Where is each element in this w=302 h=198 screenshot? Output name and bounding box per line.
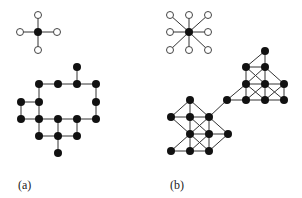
panel-label-a: (a) <box>18 178 31 192</box>
graph-node <box>167 113 175 121</box>
graph-node <box>73 63 81 71</box>
graph-node <box>280 80 288 88</box>
graph-8-connected <box>167 47 288 155</box>
graph-node <box>186 113 194 121</box>
center-node <box>185 28 193 36</box>
neighbor-node <box>167 12 174 19</box>
graph-node <box>280 96 288 104</box>
graph-node <box>167 147 175 155</box>
graph-node <box>35 132 43 140</box>
graph-node <box>242 96 250 104</box>
neighbor-node <box>35 47 42 54</box>
neighbor-node <box>186 47 193 54</box>
graph-node <box>54 132 62 140</box>
graph-node <box>186 147 194 155</box>
graph-node <box>186 130 194 138</box>
panel-label-b: (b) <box>170 178 184 192</box>
graph-node <box>261 80 269 88</box>
graph-node <box>92 115 100 123</box>
graph-node <box>224 130 232 138</box>
graph-node <box>92 80 100 88</box>
graph-node <box>54 80 62 88</box>
neighbor-node <box>35 12 42 19</box>
graph-node <box>73 132 81 140</box>
graph-node <box>242 80 250 88</box>
neighbor-node <box>186 12 193 19</box>
graph-node <box>54 149 62 157</box>
graph-node <box>261 63 269 71</box>
graph-node <box>54 115 62 123</box>
center-node <box>34 28 42 36</box>
graph-node <box>186 96 194 104</box>
neighbor-node <box>54 29 61 36</box>
panel-b: (b) <box>167 12 289 193</box>
graph-node <box>35 80 43 88</box>
graph-node <box>242 63 250 71</box>
graph-node <box>205 147 213 155</box>
graph-4-connected <box>17 63 100 157</box>
graph-node <box>205 130 213 138</box>
graph-node <box>35 98 43 106</box>
neighbor-node <box>167 47 174 54</box>
graph-node <box>205 113 213 121</box>
neighbor-node <box>205 12 212 19</box>
neighbor-node <box>205 47 212 54</box>
star-8-neighborhood <box>167 12 212 54</box>
graph-node <box>261 96 269 104</box>
star-4-neighborhood <box>17 12 61 54</box>
neighbor-node <box>17 29 24 36</box>
panel-a: (a) <box>17 12 101 193</box>
figure-canvas: (a) (b) <box>0 0 302 198</box>
graph-node <box>17 98 25 106</box>
neighbor-node <box>205 29 212 36</box>
graph-node <box>73 80 81 88</box>
graph-node <box>223 96 231 104</box>
graph-node <box>35 115 43 123</box>
graph-node <box>261 47 269 55</box>
graph-node <box>92 98 100 106</box>
graph-node <box>17 115 25 123</box>
graph-node <box>73 115 81 123</box>
neighbor-node <box>167 29 174 36</box>
